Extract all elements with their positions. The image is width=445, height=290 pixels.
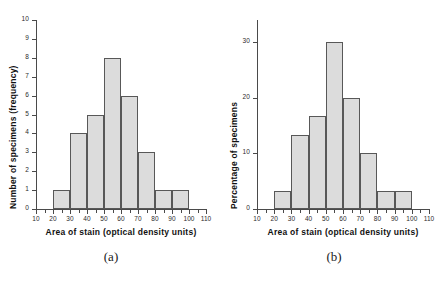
x-axis-title-a: Area of stain (optical density units) [36,227,206,237]
y-axis-tick-label: 10 [2,16,29,23]
figure-histograms: 012345678910102030405060708090100110 Num… [0,0,445,290]
plot-area-b: 0102030102030405060708090100110 [257,20,429,209]
histogram-bar [138,152,155,209]
histogram-bar [155,190,172,209]
histogram-bar [360,153,377,209]
histogram-bar [104,58,121,209]
x-axis-tick-major [429,210,430,214]
x-axis-tick-minor [317,210,318,213]
panel-caption-b: (b) [223,249,445,265]
x-axis-tick-major [395,210,396,214]
x-axis-tick-major [172,210,173,214]
y-axis-tick [32,96,36,97]
histogram-bar [274,191,291,209]
panel-b: 0102030102030405060708090100110 Percenta… [223,0,445,290]
y-axis-tick [253,42,257,43]
y-axis-line [257,20,258,210]
x-axis-tick-minor [403,210,404,213]
x-axis-tick-major [360,210,361,214]
x-axis-tick-major [326,210,327,214]
x-axis-tick-major [70,210,71,214]
y-axis-tick [32,77,36,78]
histogram-bar [291,135,308,209]
x-axis-tick-minor [420,210,421,213]
y-axis-tick [32,152,36,153]
x-axis-tick-minor [62,210,63,213]
x-axis-tick-minor [130,210,131,213]
y-axis-title-a: Number of specimens (frequency) [8,65,18,209]
x-axis-tick-minor [300,210,301,213]
histogram-bar [172,190,189,209]
histogram-bar [326,42,343,209]
y-axis-tick-label: 20 [223,94,250,101]
y-axis-tick-label: 30 [223,38,250,45]
y-axis-tick [32,133,36,134]
x-axis-tick-minor [181,210,182,213]
x-axis-tick-minor [45,210,46,213]
x-axis-tick-major [138,210,139,214]
x-axis-tick-minor [266,210,267,213]
x-axis-tick-minor [147,210,148,213]
histogram-bar [53,190,70,209]
x-axis-tick-major [104,210,105,214]
x-axis-tick-major [309,210,310,214]
histogram-bar [87,115,104,210]
y-axis-tick [32,39,36,40]
y-axis-title-b: Percentage of specimens [229,102,239,209]
x-axis-tick-major [257,210,258,214]
x-axis-tick-minor [352,210,353,213]
x-axis-tick-major [206,210,207,214]
x-axis-tick-major [53,210,54,214]
x-axis-tick-major [189,210,190,214]
x-axis-tick-minor [334,210,335,213]
y-axis-tick [253,153,257,154]
x-axis-tick-minor [113,210,114,213]
histogram-bar [343,98,360,209]
histogram-bar [70,133,87,209]
x-axis-tick-label: 110 [417,216,441,223]
x-axis-tick-major [87,210,88,214]
plot-area-a: 012345678910102030405060708090100110 [36,20,206,209]
x-axis-tick-major [36,210,37,214]
x-axis-tick-major [343,210,344,214]
x-axis-tick-minor [96,210,97,213]
x-axis-tick-major [291,210,292,214]
x-axis-tick-minor [386,210,387,213]
histogram-bar [377,191,394,209]
y-axis-tick [253,98,257,99]
y-axis-tick-label: 9 [2,35,29,42]
x-axis-tick-minor [79,210,80,213]
histogram-bar [309,116,326,209]
y-axis-tick [32,58,36,59]
x-axis-tick-minor [164,210,165,213]
y-axis-tick [32,115,36,116]
histogram-bar [395,191,412,209]
y-axis-tick [32,171,36,172]
y-axis-tick-label: 8 [2,54,29,61]
histogram-bar [121,96,138,209]
x-axis-tick-minor [283,210,284,213]
panel-caption-a: (a) [0,249,222,265]
x-axis-title-b: Area of stain (optical density units) [257,227,429,237]
x-axis-tick-major [412,210,413,214]
x-axis-tick-major [121,210,122,214]
panel-a: 012345678910102030405060708090100110 Num… [0,0,222,290]
x-axis-tick-major [377,210,378,214]
y-axis-tick [32,190,36,191]
x-axis-tick-label: 110 [194,216,218,223]
x-axis-tick-minor [369,210,370,213]
y-axis-line [36,20,37,210]
x-axis-tick-minor [198,210,199,213]
x-axis-tick-major [155,210,156,214]
x-axis-tick-major [274,210,275,214]
y-axis-tick [32,20,36,21]
